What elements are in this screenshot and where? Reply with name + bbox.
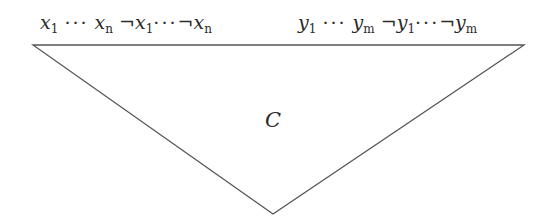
right-inputs-label: y1 ··· ym ¬y1···¬ym — [298, 13, 477, 35]
circuit-diagram: x1 ··· xn ¬x1···¬xn y1 ··· ym ¬y1···¬ym … — [0, 0, 553, 224]
circuit-label: C — [265, 110, 281, 131]
left-inputs-label: x1 ··· xn ¬x1···¬xn — [40, 13, 212, 35]
